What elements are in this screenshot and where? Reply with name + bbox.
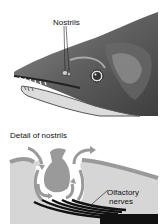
- salmon-head-illustration: [0, 0, 165, 118]
- olfactory-rosette: [44, 148, 70, 192]
- nerves-label: nerves: [109, 197, 133, 206]
- olfactory-label: Olfactory: [107, 188, 139, 197]
- nerves-leader-line: [92, 190, 108, 204]
- nasal-chamber: [35, 166, 84, 203]
- water-flow-arrows: [28, 148, 90, 198]
- detail-title: Detail of nostrils: [10, 131, 67, 140]
- arrow-head: [39, 165, 45, 170]
- nostrils-label: Nostrils: [53, 18, 80, 27]
